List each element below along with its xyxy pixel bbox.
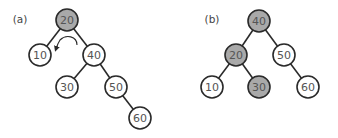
panel-label: (b) — [205, 13, 220, 25]
node-value: 50 — [109, 81, 123, 94]
node-value: 20 — [229, 49, 243, 62]
panel-label: (a) — [13, 13, 28, 25]
tree-node: 20 — [56, 9, 78, 31]
tree-node: 50 — [273, 44, 295, 66]
panel-b: (b)402050103060 — [201, 10, 319, 98]
tree-rotation-diagram: (a)201040305060 (b)402050103060 — [0, 0, 338, 138]
tree-node: 50 — [105, 76, 127, 98]
tree-node: 40 — [83, 44, 105, 66]
panel-a: (a)201040305060 — [13, 9, 151, 129]
node-value: 20 — [60, 14, 74, 27]
rotation-arrow-icon — [56, 37, 77, 49]
tree-node: 40 — [248, 10, 270, 32]
node-value: 10 — [33, 49, 47, 62]
node-value: 40 — [87, 49, 101, 62]
node-value: 60 — [301, 81, 315, 94]
node-value: 60 — [133, 112, 147, 125]
node-value: 30 — [252, 81, 266, 94]
tree-node: 10 — [29, 44, 51, 66]
node-value: 30 — [60, 81, 74, 94]
tree-node: 30 — [56, 76, 78, 98]
tree-node: 30 — [248, 76, 270, 98]
tree-node: 20 — [225, 44, 247, 66]
node-value: 50 — [277, 49, 291, 62]
node-value: 40 — [252, 15, 266, 28]
tree-node: 10 — [201, 76, 223, 98]
node-value: 10 — [205, 81, 219, 94]
tree-node: 60 — [297, 76, 319, 98]
tree-node: 60 — [129, 107, 151, 129]
